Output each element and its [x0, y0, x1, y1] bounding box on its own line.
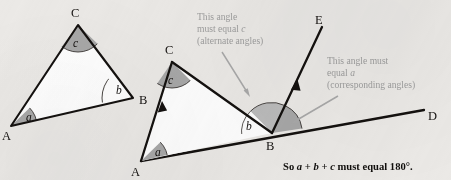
figure-canvas: A B C a b c: [0, 0, 451, 180]
svg-text:(alternate angles): (alternate angles): [197, 35, 263, 47]
svg-text:This angle: This angle: [197, 11, 237, 22]
annot2-line2-prefix: equal: [327, 67, 350, 78]
right-angle-label-c: c: [168, 74, 173, 86]
conclusion-suffix: must equal 180°.: [335, 161, 413, 172]
left-vertex-label-A: A: [2, 129, 11, 143]
annotation-pointer-alternate: [222, 52, 250, 97]
left-angle-label-b: b: [116, 84, 122, 96]
right-angle-label-a: a: [155, 146, 161, 158]
annot2-line1: This angle must: [327, 55, 389, 66]
annot1-line2-prefix: must equal: [197, 23, 241, 34]
annotation-alternate-angles: This angle must equal c (alternate angle…: [197, 11, 263, 47]
svg-text:(corresponding angles): (corresponding angles): [327, 79, 415, 91]
conclusion-plus2: +: [319, 161, 330, 172]
right-vertex-label-A: A: [131, 165, 140, 179]
annot1-line2-italic: c: [241, 23, 246, 34]
annot2-line2-italic: a: [350, 67, 355, 78]
left-angle-label-c: c: [73, 37, 78, 49]
svg-text:must equal c: must equal c: [197, 23, 246, 34]
left-angle-label-a: a: [26, 111, 32, 123]
annot2-line3: (corresponding angles): [327, 79, 415, 91]
right-angle-label-b: b: [246, 120, 252, 132]
right-vertex-label-D: D: [428, 109, 437, 123]
svg-text:So a + b + c must equal 180°.: So a + b + c must equal 180°.: [283, 161, 413, 172]
annot1-line3: (alternate angles): [197, 35, 263, 47]
right-vertex-label-B: B: [266, 139, 274, 153]
svg-text:This angle must: This angle must: [327, 55, 389, 66]
right-vertex-label-C: C: [165, 43, 173, 57]
conclusion-text: So a + b + c must equal 180°.: [283, 161, 413, 172]
left-vertex-label-C: C: [71, 6, 79, 20]
annotation-pointer-corresponding: [292, 96, 339, 123]
annotation-corresponding-angles: This angle must equal a (corresponding a…: [327, 55, 415, 91]
annot1-line1: This angle: [197, 11, 237, 22]
left-vertex-label-B: B: [139, 93, 147, 107]
right-triangle-group: A B C D E a b c: [114, 13, 437, 180]
conclusion-prefix: So: [283, 161, 297, 172]
left-triangle-group: A B C a b c: [0, 0, 164, 152]
geometry-svg: A B C a b c: [0, 0, 451, 180]
conclusion-plus1: +: [302, 161, 313, 172]
right-vertex-label-E: E: [315, 13, 323, 27]
svg-text:equal a: equal a: [327, 67, 355, 78]
